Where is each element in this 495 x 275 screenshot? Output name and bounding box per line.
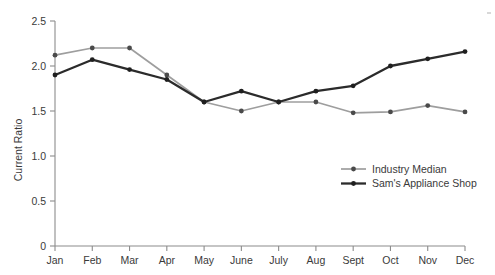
data-point	[90, 46, 95, 51]
legend-label: Industry Median	[372, 163, 447, 175]
x-tick-label: May	[194, 254, 215, 266]
data-point	[388, 64, 393, 69]
data-point	[351, 110, 356, 115]
y-tick-label: 1.5	[31, 105, 46, 117]
data-point	[463, 110, 468, 115]
data-point	[351, 83, 356, 88]
x-tick-label: Jan	[47, 254, 64, 266]
data-point	[425, 103, 430, 108]
data-point	[53, 73, 58, 78]
data-point	[314, 100, 319, 105]
line-chart: 00.51.01.52.02.5 JanFebMarAprMayJuneJuly…	[0, 0, 495, 275]
corner-artifact	[487, 12, 491, 14]
data-point	[127, 46, 132, 51]
data-point	[164, 77, 169, 82]
data-point	[127, 67, 132, 72]
data-point	[239, 89, 244, 94]
x-tick-label: Apr	[159, 254, 176, 266]
y-tick-label: 2.0	[31, 60, 46, 72]
x-tick-label: Oct	[382, 254, 398, 266]
data-point	[314, 89, 319, 94]
x-tick-label: Nov	[418, 254, 437, 266]
chart-container: 00.51.01.52.02.5 JanFebMarAprMayJuneJuly…	[0, 0, 495, 275]
data-point	[164, 73, 169, 78]
legend-label: Sam's Appliance Shop	[372, 177, 477, 189]
data-point	[388, 110, 393, 115]
data-point	[239, 109, 244, 114]
y-axis-title: Current Ratio	[12, 119, 24, 182]
x-tick-label: Aug	[307, 254, 326, 266]
y-tick-label: 0	[40, 240, 46, 252]
x-tick-label: July	[269, 254, 288, 266]
y-tick-label: 0.5	[31, 195, 46, 207]
x-tick-label: June	[230, 254, 253, 266]
chart-background	[0, 0, 495, 275]
data-point	[276, 100, 281, 105]
x-tick-label: Sept	[342, 254, 364, 266]
y-tick-label: 1.0	[31, 150, 46, 162]
legend-marker	[351, 181, 356, 186]
x-tick-label: Mar	[120, 254, 139, 266]
data-point	[90, 57, 95, 62]
data-point	[463, 49, 468, 54]
data-point	[425, 56, 430, 61]
x-tick-label: Feb	[83, 254, 101, 266]
x-tick-label: Dec	[456, 254, 475, 266]
legend-marker	[351, 167, 356, 172]
data-point	[53, 53, 58, 58]
y-tick-label: 2.5	[31, 15, 46, 27]
data-point	[202, 100, 207, 105]
